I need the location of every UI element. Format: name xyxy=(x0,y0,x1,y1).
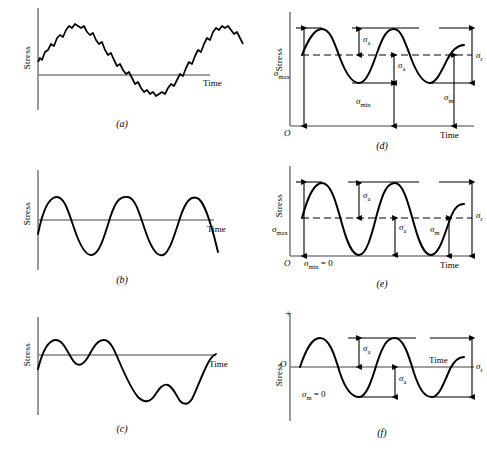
sigma-subscript: m xyxy=(448,97,453,104)
sigma-subscript: a xyxy=(402,65,405,72)
stress-axis-label-a: Stress xyxy=(22,46,32,69)
panel-d: Stress Time O σa σa σmax σmin σm σr (d) xyxy=(244,0,487,152)
sigma-a-lower-label-e: σa xyxy=(399,222,406,234)
positive-axis-sign-f: + xyxy=(285,307,291,319)
panel-b: Stress Time (b) xyxy=(0,152,244,304)
sigma-m-label-d: σm xyxy=(444,92,454,104)
panel-caption-d: (d) xyxy=(352,140,412,151)
sigma-subscript: a xyxy=(367,348,370,355)
panel-caption-c: (c) xyxy=(92,423,152,434)
sigma-subscript: r xyxy=(480,215,482,222)
sigma-subscript: a xyxy=(403,227,406,234)
sigma-m-zero-note-f: σm = 0 xyxy=(302,389,326,401)
sigma-r-label-d: σr xyxy=(476,50,483,62)
panel-c: Stress Time (c) xyxy=(0,305,244,457)
time-axis-label-c: Time xyxy=(209,359,228,369)
panel-caption-a: (a) xyxy=(92,118,152,129)
sigma-subscript: max xyxy=(276,229,287,236)
time-axis-label-b: Time xyxy=(207,224,226,234)
sigma-a-upper-label-f: σa xyxy=(363,343,370,355)
sigma-max-label-e: σmax xyxy=(272,224,288,236)
sigma-subscript: r xyxy=(480,366,482,373)
sigma-r-label-e: σr xyxy=(476,210,483,222)
sigma-subscript: m xyxy=(306,394,311,401)
origin-label-e: O xyxy=(284,258,291,268)
sigma-min-label-d: σmin xyxy=(356,96,371,108)
sigma-subscript: m xyxy=(434,229,439,236)
panel-f: + Stress O Time σa σa σr σm = 0 (f) xyxy=(244,305,487,457)
sigma-subscript: max xyxy=(278,73,289,80)
stress-axis-label-e: Stress xyxy=(274,194,284,217)
panel-caption-e: (e) xyxy=(352,278,412,289)
time-axis-label-f: Time xyxy=(429,355,448,365)
time-axis-label-a: Time xyxy=(203,78,222,88)
panel-e: Stress Time O σa σa σmax σm σr σmin = 0 … xyxy=(244,152,487,304)
sigma-subscript: a xyxy=(367,39,370,46)
sigma-a-upper-label-d: σa xyxy=(363,34,370,46)
sigma-subscript: a xyxy=(403,378,406,385)
sigma-a-lower-label-d: σa xyxy=(398,60,405,72)
sigma-min-zero-note-e: σmin = 0 xyxy=(304,258,333,270)
panel-e-plot xyxy=(244,152,487,292)
sigma-min-zero-value: = 0 xyxy=(321,258,333,268)
panel-caption-f: (f) xyxy=(352,427,412,438)
time-axis-label-d: Time xyxy=(440,130,459,140)
sigma-max-label-d: σmax xyxy=(274,68,290,80)
sigma-a-lower-label-f: σa xyxy=(399,373,406,385)
sigma-subscript: r xyxy=(480,55,482,62)
stress-axis-label-b: Stress xyxy=(22,202,32,225)
sigma-m-label-e: σm xyxy=(430,224,440,236)
sigma-subscript: min xyxy=(360,101,370,108)
panel-b-plot xyxy=(0,152,244,292)
sigma-subscript: a xyxy=(367,195,370,202)
time-axis-label-e: Time xyxy=(440,260,459,270)
sigma-r-label-f: σr xyxy=(476,361,483,373)
origin-label-f: O xyxy=(280,359,287,369)
sigma-a-upper-label-e: σa xyxy=(363,190,370,202)
sigma-subscript: min xyxy=(308,263,318,270)
stress-axis-label-c: Stress xyxy=(22,343,32,366)
origin-label-d: O xyxy=(284,128,291,138)
panel-a: Stress Time (a) xyxy=(0,0,244,152)
sigma-m-zero-value: = 0 xyxy=(314,389,326,399)
panel-caption-b: (b) xyxy=(92,274,152,285)
